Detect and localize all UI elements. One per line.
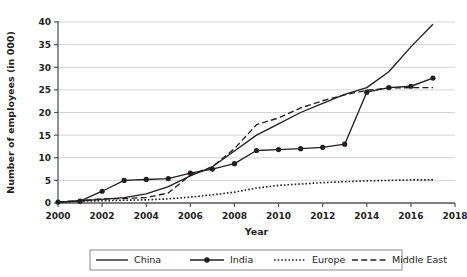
legend-label-europe: Europe bbox=[312, 254, 346, 265]
series-line-china bbox=[58, 24, 433, 202]
y-tick-label: 5 bbox=[45, 176, 51, 186]
x-tick-label: 2002 bbox=[90, 211, 115, 221]
series-marker-india bbox=[232, 161, 237, 166]
series-marker-india bbox=[100, 189, 105, 194]
x-tick-label: 2014 bbox=[354, 211, 379, 221]
series-marker-india bbox=[320, 145, 325, 150]
y-tick-label: 15 bbox=[38, 131, 51, 141]
x-tick-label: 2010 bbox=[266, 211, 291, 221]
legend-label-middle-east: Middle East bbox=[392, 254, 447, 265]
y-tick-label: 20 bbox=[38, 108, 51, 118]
series-line-india bbox=[58, 78, 433, 202]
x-tick-label: 2006 bbox=[178, 211, 203, 221]
y-tick-label: 30 bbox=[38, 63, 51, 73]
series-marker-india bbox=[144, 177, 149, 182]
x-tick-label: 2016 bbox=[398, 211, 423, 221]
legend-marker bbox=[204, 257, 209, 262]
series-marker-india bbox=[430, 76, 435, 81]
series-marker-india bbox=[254, 148, 259, 153]
series-marker-india bbox=[122, 178, 127, 183]
chart-canvas: 0510152025303540200020022004200620082010… bbox=[0, 0, 467, 277]
x-tick-label: 2004 bbox=[134, 211, 159, 221]
y-axis-title: Number of employees (in 000) bbox=[5, 31, 16, 194]
y-tick-label: 0 bbox=[45, 198, 51, 208]
y-tick-label: 35 bbox=[38, 40, 51, 50]
x-tick-label: 2008 bbox=[222, 211, 247, 221]
y-tick-label: 40 bbox=[38, 17, 51, 27]
x-tick-label: 2012 bbox=[310, 211, 335, 221]
x-axis-title: Year bbox=[244, 226, 269, 237]
y-tick-label: 10 bbox=[38, 153, 51, 163]
x-tick-label: 2000 bbox=[45, 211, 70, 221]
x-tick-label: 2018 bbox=[442, 211, 467, 221]
legend-label-india: India bbox=[230, 254, 253, 265]
line-chart: 0510152025303540200020022004200620082010… bbox=[0, 0, 467, 277]
series-marker-india bbox=[276, 147, 281, 152]
y-tick-label: 25 bbox=[38, 85, 51, 95]
series-marker-india bbox=[298, 146, 303, 151]
series-marker-india bbox=[166, 176, 171, 181]
series-marker-india bbox=[342, 142, 347, 147]
legend-label-china: China bbox=[134, 254, 161, 265]
